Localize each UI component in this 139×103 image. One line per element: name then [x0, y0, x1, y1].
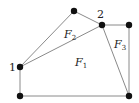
graph-diagram: 1 2 F2 F1 F3	[0, 0, 139, 103]
node-2	[99, 22, 105, 28]
node-bottom-right	[126, 93, 132, 99]
node-top-right	[126, 22, 132, 28]
node-1	[17, 64, 23, 70]
node-top	[71, 8, 77, 14]
edge-2-bottomright	[102, 25, 129, 96]
face-label-f3: F3	[113, 38, 126, 52]
face-label-f2: F2	[63, 28, 76, 42]
node-label-1: 1	[9, 61, 16, 74]
node-bottom-left	[17, 93, 23, 99]
node-label-2: 2	[97, 8, 104, 21]
face-label-f1: F1	[74, 56, 87, 70]
edge-1-2	[20, 25, 102, 67]
